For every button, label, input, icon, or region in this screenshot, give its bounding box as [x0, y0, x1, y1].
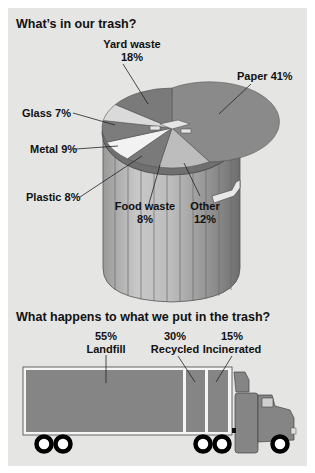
label-incinerated-pct: 15%: [202, 330, 262, 343]
label-landfill-pct: 55%: [80, 330, 132, 343]
section-title-trash-contents: What’s in our trash?: [16, 17, 136, 31]
truck-cab: [235, 393, 258, 453]
label-landfill: 55% Landfill: [80, 330, 132, 356]
label-recycled: 30% Recycled: [150, 330, 200, 356]
wheel: [196, 437, 211, 452]
pie-lid: [102, 82, 279, 168]
label-other-name: Other: [182, 200, 228, 213]
label-plastic: Plastic 8%: [26, 191, 80, 204]
label-incinerated: 15% Incinerated: [202, 330, 262, 356]
label-other: Other 12%: [182, 200, 228, 226]
wheel: [215, 437, 230, 452]
wheel: [56, 437, 71, 452]
label-food-waste-name: Food waste: [112, 200, 178, 213]
label-recycled-name: Recycled: [150, 343, 200, 356]
section-title-trash-destination: What happens to what we put in the trash…: [16, 310, 270, 324]
bar-landfill: [26, 370, 183, 432]
label-food-waste-pct: 8%: [112, 213, 178, 226]
label-landfill-name: Landfill: [80, 343, 132, 356]
label-incinerated-name: Incinerated: [202, 343, 262, 356]
label-yard-waste-pct: 18%: [92, 51, 172, 64]
label-yard-waste: Yard waste 18%: [92, 38, 172, 64]
wheel: [37, 437, 52, 452]
cab-window: [262, 398, 273, 407]
label-food-waste: Food waste 8%: [112, 200, 178, 226]
label-recycled-pct: 30%: [150, 330, 200, 343]
wheel: [273, 437, 288, 452]
label-glass: Glass 7%: [22, 107, 71, 120]
label-metal: Metal 9%: [30, 143, 77, 156]
bar-recycled: [186, 370, 205, 432]
label-other-pct: 12%: [182, 213, 228, 226]
label-paper: Paper 41%: [237, 70, 293, 83]
label-yard-waste-name: Yard waste: [92, 38, 172, 51]
